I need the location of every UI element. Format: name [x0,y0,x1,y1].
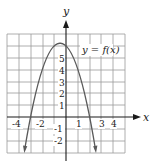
y-axis-label: y [62,5,70,18]
x-tick-label: 1 [76,119,82,129]
x-tick-label: 4 [111,119,117,129]
y-axis-arrow-icon [63,20,69,28]
curve-left-arrow-icon [23,146,27,154]
x-axis-label: x [143,111,150,124]
function-label: y = f(x) [81,44,120,55]
x-tick-label: -2 [36,119,45,129]
x-tick-label: -4 [12,119,21,129]
y-tick-label: 2 [59,89,65,99]
y-tick-labels: 5 4 3 2 1 -1 -2 [53,54,65,146]
y-tick-label: 5 [59,54,65,64]
x-tick-label: 3 [99,119,105,129]
y-tick-label: -2 [54,136,63,146]
y-tick-label: 1 [59,101,65,111]
x-axis-arrow-icon [133,114,141,120]
y-tick-label: 4 [59,66,65,76]
y-tick-label: 3 [59,78,65,88]
y-tick-label: -1 [54,124,63,134]
function-graph: y = f(x) y x -4 -2 1 3 4 5 4 3 2 1 -1 -2 [0,0,156,161]
curve-right-arrow-icon [93,146,97,154]
